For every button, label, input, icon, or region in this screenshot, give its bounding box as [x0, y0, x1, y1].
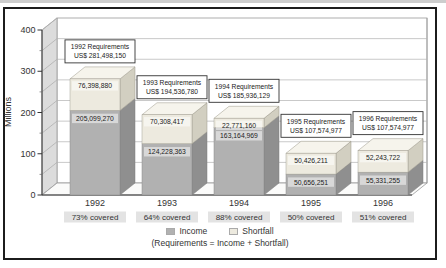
- x-axis-year-label: 1995: [301, 198, 321, 208]
- legend-item-shortfall: Shortfall: [229, 226, 273, 236]
- covered-label: 88% covered: [216, 213, 263, 222]
- requirements-note: (Requirements = Income + Shortfall): [3, 238, 437, 248]
- x-axis-year-label: 1994: [229, 198, 249, 208]
- legend-shortfall-label: Shortfall: [242, 226, 273, 236]
- covered-label: 64% covered: [144, 213, 191, 222]
- y-axis-tick-label: 200: [20, 108, 35, 118]
- bar-income-value: 205,099,270: [76, 115, 114, 122]
- y-axis-title: Millions: [3, 83, 13, 141]
- requirements-box-amount: US$ 107,574,977: [290, 127, 342, 134]
- legend: Income Shortfall: [3, 226, 437, 236]
- x-axis-year-label: 1996: [373, 198, 393, 208]
- bar-income-value: 50,656,251: [294, 179, 328, 186]
- requirements-box-amount: US$ 281,498,150: [74, 52, 126, 59]
- y-axis-tick-label: 300: [20, 66, 35, 76]
- covered-label: 73% covered: [72, 213, 119, 222]
- requirements-box-amount: US$ 185,936,129: [218, 92, 270, 99]
- covered-label: 51% covered: [360, 213, 407, 222]
- legend-item-income: Income: [166, 226, 207, 236]
- y-axis-tick-label: 400: [20, 25, 35, 35]
- requirements-box-amount: US$ 107,574,977: [362, 124, 414, 131]
- bar-income-value: 124,228,363: [148, 148, 186, 155]
- bar-shortfall-value: 76,398,880: [78, 82, 112, 89]
- bar-income-side: [120, 98, 135, 195]
- x-axis-year-label: 1993: [157, 198, 177, 208]
- requirements-box-title: 1995 Requirements: [287, 118, 346, 126]
- bar-income-value: 163,164,969: [220, 132, 258, 139]
- y-axis-tick-label: 100: [20, 149, 35, 159]
- bar-shortfall-value: 22,771,160: [222, 122, 256, 129]
- requirements-box-title: 1992 Requirements: [71, 43, 130, 51]
- requirements-box-title: 1996 Requirements: [359, 115, 418, 123]
- bar-income-side: [264, 116, 279, 195]
- requirements-box-amount: US$ 194,536,780: [146, 88, 198, 95]
- bar-shortfall-value: 50,426,211: [294, 157, 328, 164]
- covered-label: 50% covered: [288, 213, 335, 222]
- legend-income-label: Income: [179, 226, 207, 236]
- x-axis-year-label: 1992: [85, 198, 105, 208]
- bar-shortfall-value: 52,243,722: [366, 154, 400, 161]
- requirements-box-title: 1994 Requirements: [215, 83, 274, 91]
- shortfall-swatch-icon: [229, 228, 238, 235]
- requirements-box-title: 1993 Requirements: [143, 79, 202, 87]
- y-axis-tick-label: 0: [30, 190, 35, 200]
- income-swatch-icon: [166, 228, 175, 235]
- bar-income-value: 55,331,255: [366, 177, 400, 184]
- bar-shortfall-value: 70,308,417: [150, 118, 184, 125]
